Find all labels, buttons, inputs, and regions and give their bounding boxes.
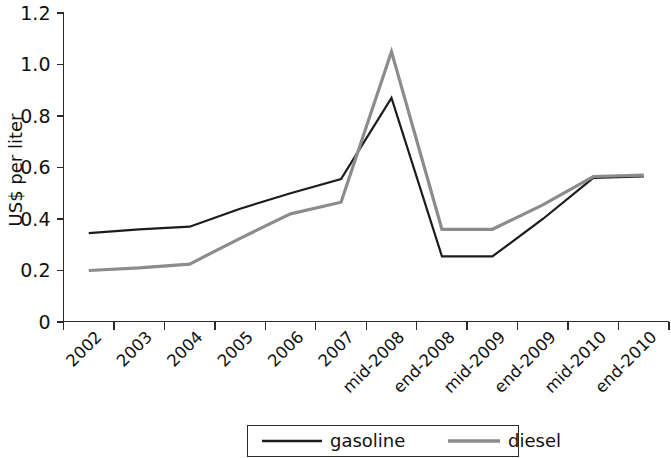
legend-label-gasoline: gasoline [330,430,405,451]
data-series-group [89,52,644,271]
y-axis-tick-label: 1.2 [20,2,50,24]
x-axis-tick-label: 2006 [264,327,307,370]
chart-legend: gasolinediesel [248,426,561,457]
x-axis-tick-label: 2003 [113,327,156,370]
x-axis-tick-label: 2004 [163,327,206,370]
y-axis-tick-label: 0.2 [20,259,50,281]
chart-container: US$ per liter 00.20.40.60.81.01.2 200220… [0,0,671,458]
x-axis-ticks: 200220032004200520062007mid-2008end-2008… [62,322,669,397]
y-axis-ticks: 00.20.40.60.81.01.2 [20,2,63,333]
y-axis-tick-label: 0.6 [20,156,50,178]
y-axis-tick-label: 1.0 [20,53,50,75]
y-axis-tick-label: 0 [38,311,50,333]
series-line-diesel [89,52,644,271]
y-axis-tick-label: 0.8 [20,105,50,127]
y-axis-tick-label: 0.4 [20,208,50,230]
line-chart: US$ per liter 00.20.40.60.81.01.2 200220… [0,0,671,458]
legend-label-diesel: diesel [508,430,561,451]
x-axis-tick-label: 2007 [315,327,358,370]
x-axis-tick-label: 2002 [62,327,105,370]
series-line-gasoline [89,98,644,256]
x-axis-tick-label: 2005 [214,327,257,370]
